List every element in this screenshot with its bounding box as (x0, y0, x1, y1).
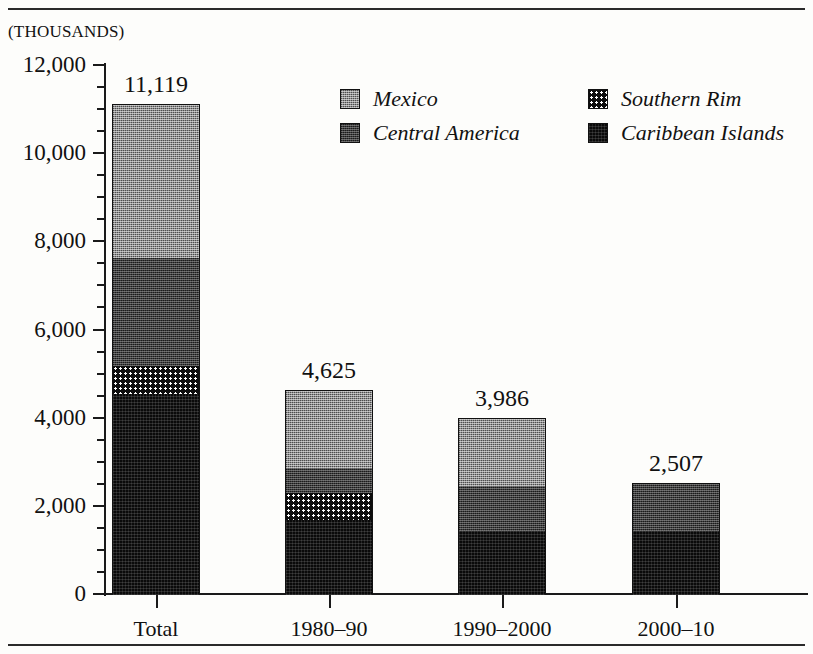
segment-southern-rim (113, 366, 199, 394)
y-axis-minor-tick (97, 395, 104, 397)
y-axis-tick-label: 8,000 (0, 228, 86, 254)
legend-swatch-icon (588, 123, 608, 143)
y-axis-minor-tick (97, 306, 104, 308)
y-axis-minor-tick (97, 262, 104, 264)
y-axis-major-tick (93, 64, 104, 66)
x-axis-tick (676, 595, 678, 608)
y-axis-minor-tick (97, 196, 104, 198)
y-axis-major-tick (93, 329, 104, 331)
segment-caribbean-islands (459, 531, 545, 595)
y-axis-tick-label: 4,000 (0, 405, 86, 431)
segment-mexico (459, 419, 545, 486)
legend-label: Mexico (373, 86, 438, 112)
y-axis-tick-label: 2,000 (0, 493, 86, 519)
y-axis-tick-label: 0 (0, 581, 86, 607)
x-axis-tick-label: 1980–90 (245, 616, 413, 642)
segment-caribbean-islands (286, 520, 372, 595)
segment-central-america (633, 484, 719, 531)
legend-swatch-icon (340, 89, 360, 109)
y-axis-minor-tick (97, 527, 104, 529)
y-axis-minor-tick (97, 108, 104, 110)
segment-mexico (286, 391, 372, 468)
legend-label: Caribbean Islands (621, 120, 784, 146)
legend-swatch-icon (340, 123, 360, 143)
x-axis-tick-label: Total (72, 616, 240, 642)
y-axis-minor-tick (97, 351, 104, 353)
bar-1990-2000[interactable] (458, 418, 546, 594)
y-axis-line (104, 63, 106, 596)
y-axis-tick-label: 6,000 (0, 317, 86, 343)
legend-item-central[interactable]: Central America (340, 120, 520, 146)
x-axis-tick-label: 2000–10 (592, 616, 760, 642)
segment-central-america (286, 468, 372, 493)
x-axis-tick (502, 595, 504, 608)
bar-value-label: 11,119 (92, 71, 220, 98)
x-axis-tick (329, 595, 331, 608)
y-axis-major-tick (93, 505, 104, 507)
y-axis-minor-tick (97, 174, 104, 176)
y-axis-major-tick (93, 152, 104, 154)
segment-caribbean-islands (113, 394, 199, 595)
bar-value-label: 2,507 (612, 450, 740, 477)
y-axis-major-tick (93, 240, 104, 242)
bar-value-label: 4,625 (265, 357, 393, 384)
y-axis-minor-tick (97, 549, 104, 551)
legend-swatch-icon (588, 89, 608, 109)
y-axis-minor-tick (97, 461, 104, 463)
y-axis-minor-tick (97, 130, 104, 132)
y-axis-minor-tick (97, 284, 104, 286)
legend-label: Southern Rim (621, 86, 741, 112)
y-axis-minor-tick (97, 218, 104, 220)
legend-label: Central America (373, 120, 520, 146)
segment-central-america (113, 258, 199, 366)
y-axis-minor-tick (97, 373, 104, 375)
y-axis-minor-tick (97, 483, 104, 485)
y-axis-minor-tick (97, 439, 104, 441)
segment-caribbean-islands (633, 531, 719, 595)
bar-1980-90[interactable] (285, 390, 373, 594)
legend-item-caribbean[interactable]: Caribbean Islands (588, 120, 784, 146)
bar-value-label: 3,986 (438, 385, 566, 412)
x-axis-tick-label: 1990–2000 (418, 616, 586, 642)
y-axis-major-tick (93, 593, 104, 595)
segment-central-america (459, 486, 545, 531)
y-axis-tick-label: 10,000 (0, 140, 86, 166)
y-axis-major-tick (93, 417, 104, 419)
y-axis-minor-tick (97, 571, 104, 573)
bar-total[interactable] (112, 104, 200, 594)
segment-southern-rim (286, 493, 372, 520)
legend-item-mexico[interactable]: Mexico (340, 86, 438, 112)
bar-2000-10[interactable] (632, 483, 720, 594)
y-axis-tick-label: 12,000 (0, 52, 86, 78)
segment-mexico (113, 105, 199, 258)
x-axis-tick (156, 595, 158, 608)
legend-item-southern[interactable]: Southern Rim (588, 86, 741, 112)
